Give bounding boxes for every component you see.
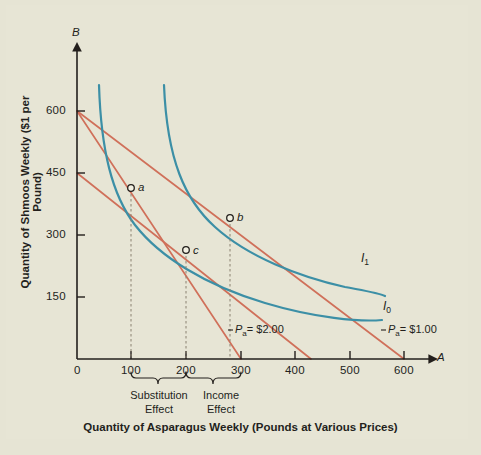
equilibrium-points [128,185,234,254]
y-axis-title: Quantity of Shmoos Weekly ($1 per Pound) [19,77,43,307]
x-tick-label-600: 600 [394,365,414,377]
price-label-1-00-value: = $1.00 [400,323,437,335]
income-effect-line1: Income [187,388,255,402]
marker-point-c [183,247,190,254]
budget-lines [77,111,404,359]
curve-label-I1: I1 [361,252,369,267]
x-tick-label-100: 100 [121,365,141,377]
y-tick-label-300: 300 [46,229,66,241]
price-label-2-00-value: = $2.00 [247,323,284,335]
x-ticks [131,351,404,359]
indifference-curves [99,85,385,320]
curve-label-I0-sub: 0 [386,305,391,315]
x-axis-symbol: A [437,352,445,364]
y-ticks [77,111,85,297]
x-axis-title: Quantity of Asparagus Weekly (Pounds at … [0,421,481,433]
x-tick-label-400: 400 [285,365,305,377]
x-tick-label-500: 500 [340,365,360,377]
indifference-curve-I1 [164,85,385,296]
y-tick-label-450: 450 [46,167,66,179]
point-label-a: a [138,182,144,194]
curve-label-I1-sub: 1 [364,257,369,267]
curve-label-I0: I0 [383,300,391,315]
figure-container: B A 600 450 300 150 0 100 200 300 400 50… [0,0,481,455]
budget-line-p1 [77,111,404,359]
x-tick-label-0: 0 [74,365,81,377]
income-effect-line2: Effect [187,402,255,416]
marker-point-a [128,185,135,192]
x-tick-label-200: 200 [176,365,196,377]
point-label-c: c [193,245,199,257]
y-tick-label-150: 150 [46,291,66,303]
marker-point-b [227,215,234,222]
chart-canvas [0,0,481,455]
annotation-income-effect: Income Effect [187,388,255,416]
x-tick-label-300: 300 [231,365,251,377]
price-label-1-00: Pa= $1.00 [388,324,437,338]
point-label-b: b [237,212,243,224]
y-axis-symbol: B [72,27,80,39]
budget-line-p2 [77,111,241,359]
y-tick-label-600: 600 [46,105,66,117]
price-label-2-00: Pa= $2.00 [235,324,284,338]
